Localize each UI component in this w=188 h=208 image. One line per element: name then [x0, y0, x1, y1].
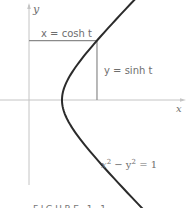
cosh-label: x = cosh t	[41, 28, 92, 39]
sinh-label: y = sinh t	[104, 65, 152, 76]
y-axis-arrow	[27, 3, 31, 9]
figure-caption: FIGURE 1.1	[33, 204, 109, 208]
y-axis-label: y	[32, 3, 40, 16]
curve-equation: x2 − y2 = 1	[101, 158, 157, 170]
x-axis-label: x	[176, 103, 182, 114]
x-axis-arrow	[180, 98, 186, 102]
hyperbola-figure: y x x = cosh t y = sinh t x2 − y2 = 1 FI…	[0, 0, 188, 208]
